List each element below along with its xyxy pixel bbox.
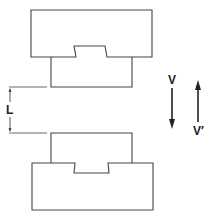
velocity-up-label: V′ xyxy=(193,124,204,138)
velocity-down-arrow-icon xyxy=(169,119,175,129)
upper-block xyxy=(31,10,152,57)
upper-insert xyxy=(51,57,132,87)
dimension-arrowhead-up-icon xyxy=(9,88,12,92)
lower-insert xyxy=(51,133,132,163)
diagram-canvas: L V V′ xyxy=(0,0,217,220)
velocity-down-label: V xyxy=(168,73,176,87)
gap-label: L xyxy=(6,103,13,117)
dimension-arrowhead-down-icon xyxy=(9,128,12,132)
lower-block xyxy=(32,163,153,210)
velocity-up-arrow-icon xyxy=(195,80,201,90)
